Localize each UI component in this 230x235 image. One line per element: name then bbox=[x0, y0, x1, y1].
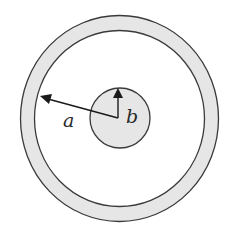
coaxial-diagram: a b bbox=[0, 0, 230, 235]
label-a: a bbox=[63, 109, 74, 131]
label-b: b bbox=[126, 105, 138, 127]
